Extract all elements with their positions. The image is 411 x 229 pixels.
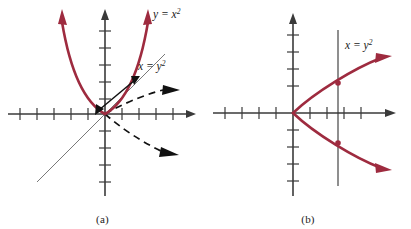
- panel-a-plot: y = x2 x = y2: [0, 0, 205, 205]
- label-x-equals-y-squared-b: x = y2: [344, 38, 373, 52]
- math-figure: y = x2 x = y2 (a): [0, 0, 411, 229]
- label-x-equals-y-squared-a: x = y2: [137, 59, 166, 73]
- caption-panel-a: (a): [0, 213, 205, 225]
- label-y-equals-x-squared: y = x2: [152, 7, 181, 21]
- line-y-equals-x-a: [37, 54, 165, 182]
- y-axis-b: [289, 13, 297, 196]
- panel-b: x = y2 (b): [205, 0, 411, 229]
- panel-a: y = x2 x = y2 (a): [0, 0, 205, 229]
- intersection-point-upper: [335, 80, 341, 86]
- intersection-point-lower: [335, 140, 341, 146]
- x-axis-b: [213, 109, 396, 117]
- caption-panel-b: (b): [205, 213, 411, 225]
- panel-b-plot: x = y2: [205, 0, 411, 205]
